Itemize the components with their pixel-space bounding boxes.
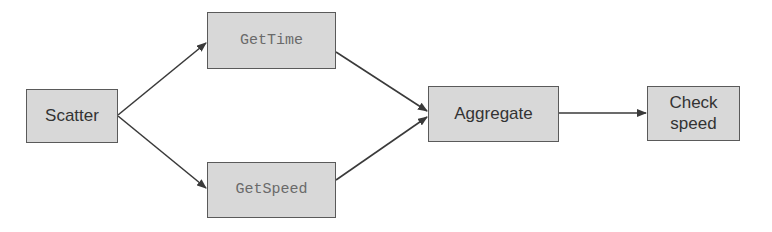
- node-gettime: GetTime: [207, 12, 336, 69]
- node-label: GetTime: [240, 32, 303, 50]
- node-label: Aggregate: [454, 104, 532, 124]
- flow-diagram: Scatter GetTime GetSpeed Aggregate Check…: [0, 0, 772, 232]
- edge-getspeed-aggregate: [336, 117, 427, 180]
- node-scatter: Scatter: [26, 89, 118, 143]
- edge-gettime-aggregate: [336, 52, 427, 111]
- node-label-line-1: Check: [669, 93, 717, 113]
- node-label: GetSpeed: [235, 181, 307, 199]
- node-check-speed: Check speed: [647, 86, 740, 141]
- node-label-line-2: speed: [670, 114, 716, 134]
- node-aggregate: Aggregate: [428, 86, 559, 142]
- node-getspeed: GetSpeed: [207, 162, 336, 218]
- edge-scatter-getspeed: [118, 116, 206, 188]
- edge-scatter-gettime: [118, 43, 206, 115]
- node-label: Scatter: [45, 106, 99, 126]
